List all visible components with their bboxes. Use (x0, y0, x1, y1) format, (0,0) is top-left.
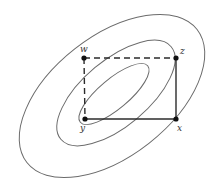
point-w (81, 55, 86, 60)
label-x: x (177, 123, 182, 133)
label-z: z (179, 46, 185, 56)
label-y: y (79, 123, 86, 133)
point-z (173, 55, 178, 60)
point-x (173, 116, 178, 121)
outer-contour (0, 0, 220, 196)
contour-diagram: w z y x (0, 0, 220, 196)
point-y (82, 116, 87, 121)
label-w: w (80, 44, 88, 54)
edge-w-y (84, 58, 85, 119)
inner-contour (71, 54, 158, 134)
middle-contour (40, 21, 193, 164)
